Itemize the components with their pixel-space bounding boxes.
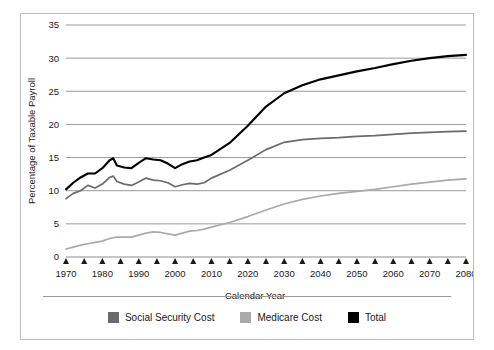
- x-tick-marker-2025: [263, 258, 269, 264]
- legend-swatch-icon: [348, 312, 359, 323]
- x-tick-marker-1985: [118, 258, 124, 264]
- y-tick-10: 10: [48, 185, 59, 196]
- x-tick-2060: 2060: [383, 268, 404, 279]
- x-tick-marker-2010: [208, 258, 214, 264]
- legend-item-social-security-cost[interactable]: Social Security Cost: [108, 312, 214, 323]
- series-line-medicare-cost: [66, 179, 466, 249]
- chart-legend: Social Security CostMedicare CostTotal: [21, 305, 473, 329]
- y-tick-15: 15: [48, 152, 59, 163]
- x-tick-marker-2070: [427, 258, 433, 264]
- legend-swatch-icon: [240, 312, 251, 323]
- y-tick-25: 25: [48, 86, 59, 97]
- x-tick-1980: 1980: [92, 268, 113, 279]
- x-axis-tick-marks: [63, 258, 469, 264]
- y-axis-tick-labels: 05101520253035: [48, 19, 59, 262]
- x-tick-marker-2065: [408, 258, 414, 264]
- legend-divider: [43, 296, 451, 297]
- data-series-lines: [66, 55, 466, 249]
- x-tick-marker-1995: [154, 258, 160, 264]
- x-tick-marker-2000: [172, 258, 178, 264]
- series-line-total: [66, 55, 466, 190]
- y-tick-20: 20: [48, 119, 59, 130]
- x-tick-marker-2075: [445, 258, 451, 264]
- x-tick-2000: 2000: [165, 268, 186, 279]
- y-tick-0: 0: [54, 251, 59, 262]
- legend-swatch-icon: [108, 312, 119, 323]
- gridlines: [66, 25, 466, 257]
- x-tick-2010: 2010: [201, 268, 222, 279]
- y-axis-title: Percentage of Taxable Payroll: [26, 78, 37, 204]
- x-tick-marker-1980: [99, 258, 105, 264]
- y-tick-5: 5: [54, 218, 59, 229]
- x-tick-2080: 2080: [455, 268, 473, 279]
- x-tick-marker-2050: [354, 258, 360, 264]
- legend-item-medicare-cost[interactable]: Medicare Cost: [240, 312, 321, 323]
- chart-plot-area: 05101520253035 1970198019902000201020202…: [21, 14, 473, 304]
- x-tick-marker-2030: [281, 258, 287, 264]
- legend-label: Medicare Cost: [257, 312, 321, 323]
- x-tick-marker-2015: [227, 258, 233, 264]
- x-tick-marker-2005: [190, 258, 196, 264]
- x-tick-marker-2060: [390, 258, 396, 264]
- y-tick-35: 35: [48, 19, 59, 30]
- x-tick-marker-1975: [81, 258, 87, 264]
- x-tick-2070: 2070: [419, 268, 440, 279]
- x-tick-2030: 2030: [274, 268, 295, 279]
- x-tick-2050: 2050: [346, 268, 367, 279]
- x-tick-marker-1990: [136, 258, 142, 264]
- legend-item-total[interactable]: Total: [348, 312, 386, 323]
- x-tick-marker-2080: [463, 258, 469, 264]
- x-tick-2020: 2020: [237, 268, 258, 279]
- legend-label: Social Security Cost: [125, 312, 214, 323]
- x-axis-tick-labels: 1970198019902000201020202030204020502060…: [55, 268, 473, 279]
- x-tick-marker-2040: [318, 258, 324, 264]
- x-tick-2040: 2040: [310, 268, 331, 279]
- x-tick-marker-1970: [63, 258, 69, 264]
- chart-figure: 05101520253035 1970198019902000201020202…: [20, 13, 474, 340]
- series-line-social-security-cost: [66, 131, 466, 199]
- x-tick-marker-2020: [245, 258, 251, 264]
- legend-label: Total: [365, 312, 386, 323]
- y-tick-30: 30: [48, 53, 59, 64]
- x-tick-marker-2035: [299, 258, 305, 264]
- x-tick-marker-2055: [372, 258, 378, 264]
- x-tick-1970: 1970: [55, 268, 76, 279]
- x-tick-1990: 1990: [128, 268, 149, 279]
- x-tick-marker-2045: [336, 258, 342, 264]
